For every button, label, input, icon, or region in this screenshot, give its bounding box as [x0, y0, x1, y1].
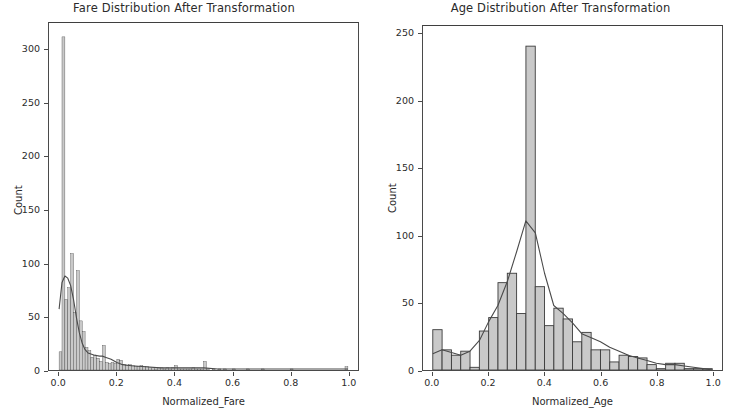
y-tick-label: 100	[0, 259, 40, 269]
y-tick-label: 0	[0, 366, 40, 376]
panel-fare-distribution: Fare Distribution After Transformation C…	[0, 0, 368, 413]
x-tick-label: 0.8	[283, 377, 298, 388]
x-tick-mark	[233, 372, 234, 376]
y-tick-mark	[44, 210, 48, 211]
x-tick-label: 1.0	[341, 377, 356, 388]
y-tick-label: 200	[0, 151, 40, 161]
y-tick-mark	[44, 264, 48, 265]
x-tick-label: 0.6	[225, 377, 240, 388]
x-tick-label: 0.4	[167, 377, 182, 388]
age-chart-title: Age Distribution After Transformation	[386, 1, 735, 15]
age-y-axis-label: Count	[387, 183, 398, 213]
x-tick-label: 0.0	[51, 377, 66, 388]
x-tick-mark	[291, 372, 292, 376]
age-kde-curve	[423, 26, 722, 370]
y-tick-mark	[44, 49, 48, 50]
figure-canvas: Fare Distribution After Transformation C…	[0, 0, 735, 413]
x-tick-label: 0.2	[109, 377, 124, 388]
fare-plot-area	[48, 22, 359, 371]
x-tick-mark	[174, 372, 175, 376]
x-tick-mark	[116, 372, 117, 376]
y-tick-label: 250	[0, 98, 40, 108]
y-tick-mark	[44, 317, 48, 318]
y-tick-label: 300	[0, 44, 40, 54]
y-tick-mark	[44, 371, 48, 372]
fare-chart-title: Fare Distribution After Transformation	[0, 1, 368, 15]
age-x-axis-label: Normalized_Age	[422, 396, 723, 407]
kde-polyline	[433, 221, 712, 370]
fare-y-axis-label: Count	[13, 185, 24, 215]
age-plot-area	[422, 25, 723, 371]
kde-polyline	[59, 276, 348, 369]
x-tick-mark	[349, 372, 350, 376]
y-tick-label: 50	[0, 313, 40, 323]
fare-x-axis-label: Normalized_Fare	[48, 396, 359, 407]
fare-kde-curve	[49, 23, 358, 370]
y-tick-mark	[44, 156, 48, 157]
y-tick-mark	[44, 103, 48, 104]
x-tick-mark	[58, 372, 59, 376]
